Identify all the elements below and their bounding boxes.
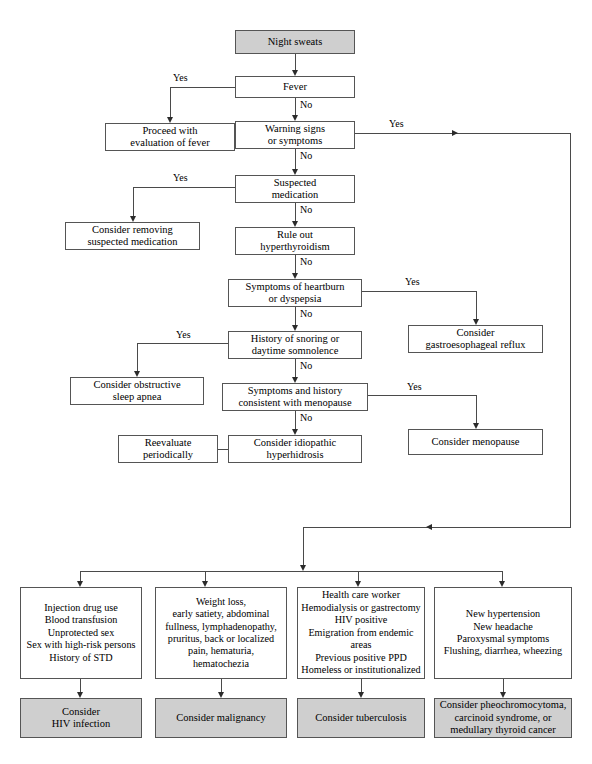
- edge-return-bus-v: [303, 527, 304, 565]
- node-consider-tuberculosis: Consider tuberculosis: [297, 698, 425, 738]
- edge-menopause-yes-h: [368, 395, 476, 396]
- label-snoring-yes: Yes: [175, 329, 192, 340]
- label-snoring-no: No: [299, 360, 313, 371]
- node-fever: Fever: [235, 76, 355, 98]
- edge-snoring-no-v: [295, 359, 296, 377]
- arrow-warning-yes: [452, 130, 458, 136]
- edge-nightsweats-fever: [295, 54, 296, 70]
- node-risk-factors-tuberculosis: Health care worker Hemodialysis or gastr…: [297, 587, 425, 679]
- node-consider-idiopathic-hyperhidrosis: Consider idiopathic hyperhidrosis: [228, 435, 362, 463]
- node-risk-factors-hiv: Injection drug use Blood transfusion Unp…: [20, 587, 142, 679]
- node-consider-endocrine-tumors: Consider pheochromocytoma, carcinoid syn…: [434, 698, 572, 738]
- node-rule-out-hyperthyroidism: Rule out hyperthyroidism: [235, 227, 355, 255]
- label-fever-no: No: [299, 99, 313, 110]
- edge-branch-hiv-v: [80, 571, 81, 581]
- edge-branch-endocrine-v: [502, 571, 503, 581]
- node-proceed-evaluation-fever: Proceed with evaluation of fever: [105, 123, 235, 151]
- edge-fever-yes-v: [170, 87, 171, 117]
- node-consider-gerd: Consider gastroesophageal reflux: [408, 325, 543, 353]
- edge-branch-tb-v: [358, 571, 359, 581]
- node-consider-menopause: Consider menopause: [408, 429, 543, 455]
- label-menopause-no: No: [299, 412, 313, 423]
- label-menopause-yes: Yes: [406, 381, 423, 392]
- label-warning-yes: Yes: [388, 118, 405, 129]
- edge-hyper-no-v: [295, 255, 296, 273]
- node-consider-removing-medication: Consider removing suspected medication: [65, 222, 200, 250]
- edge-warning-yes-v: [570, 133, 571, 527]
- label-warning-no: No: [299, 150, 313, 161]
- edge-heartburn-yes-h: [362, 291, 476, 292]
- node-consider-sleep-apnea: Consider obstructive sleep apnea: [70, 377, 204, 405]
- edge-menopause-no-v: [295, 411, 296, 429]
- label-medication-yes: Yes: [172, 172, 189, 183]
- edge-branch-malignancy-v: [205, 571, 206, 581]
- node-risk-factors-malignancy: Weight loss, early satiety, abdominal fu…: [155, 587, 287, 679]
- node-reevaluate-periodically: Reevaluate periodically: [118, 435, 218, 463]
- edge-idiopathic-reevaluate: [218, 449, 228, 450]
- label-medication-no: No: [299, 204, 313, 215]
- edge-heartburn-yes-v: [476, 291, 477, 319]
- node-suspected-medication: Suspected medication: [235, 175, 355, 203]
- label-fever-yes: Yes: [172, 72, 189, 83]
- node-menopause-question: Symptoms and history consistent with men…: [222, 383, 368, 411]
- edge-tb-dx-v: [361, 679, 362, 692]
- node-warning-signs: Warning signs or symptoms: [235, 121, 355, 149]
- label-hyper-no: No: [299, 256, 313, 267]
- node-snoring-somnolence: History of snoring or daytime somnolence: [228, 331, 362, 359]
- edge-medication-yes-v: [133, 187, 134, 216]
- edge-return-bus-h: [303, 527, 571, 528]
- arrow-return-bus: [426, 524, 432, 530]
- edge-snoring-yes-v: [137, 343, 138, 371]
- node-risk-factors-endocrine: New hypertension New headache Paroxysmal…: [434, 587, 572, 679]
- node-night-sweats: Night sweats: [235, 30, 355, 54]
- edge-heartburn-no-v: [295, 307, 296, 325]
- flowchart-canvas: Night sweats Fever Yes Proceed with eval…: [0, 0, 592, 764]
- edge-malignancy-dx-v: [221, 679, 222, 692]
- edge-hiv-dx-v: [80, 679, 81, 692]
- edge-warning-no-v: [295, 149, 296, 169]
- label-heartburn-no: No: [299, 308, 313, 319]
- edge-medication-no-v: [295, 203, 296, 221]
- edge-distribution-bus: [80, 571, 502, 572]
- node-consider-malignancy: Consider malignancy: [155, 698, 287, 738]
- edge-menopause-yes-v: [476, 395, 477, 423]
- edge-endocrine-dx-v: [503, 679, 504, 692]
- edge-fever-yes-h: [170, 87, 235, 88]
- edge-fever-no-v: [295, 98, 296, 115]
- node-heartburn-dyspepsia: Symptoms of heartburn or dyspepsia: [228, 279, 362, 307]
- node-consider-hiv-infection: Consider HIV infection: [20, 698, 142, 738]
- label-heartburn-yes: Yes: [404, 276, 421, 287]
- edge-warning-yes-h: [355, 133, 570, 134]
- edge-snoring-yes-h: [137, 343, 228, 344]
- edge-medication-yes-h: [133, 187, 235, 188]
